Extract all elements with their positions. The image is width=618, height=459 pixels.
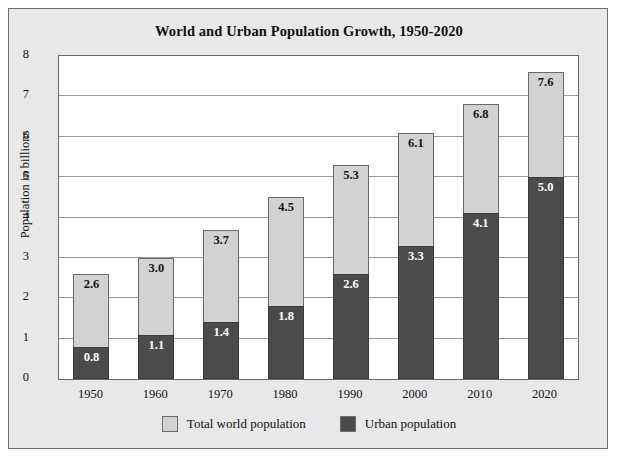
y-tick-label: 5 — [0, 168, 29, 183]
x-tick-label: 1970 — [185, 387, 255, 402]
bar-group[interactable]: 7.65.0 — [528, 56, 564, 379]
x-tick-label: 2010 — [445, 387, 515, 402]
legend-swatch-icon — [162, 416, 178, 432]
bar-group[interactable]: 6.84.1 — [463, 56, 499, 379]
bar-value-label-total: 5.3 — [334, 168, 368, 183]
y-tick-label: 4 — [0, 209, 29, 224]
chart-title: World and Urban Population Growth, 1950-… — [9, 23, 609, 40]
bar-group[interactable]: 2.60.8 — [73, 56, 109, 379]
bar-group[interactable]: 5.32.6 — [333, 56, 369, 379]
y-tick-label: 1 — [0, 330, 29, 345]
chart-figure: World and Urban Population Growth, 1950-… — [0, 0, 618, 459]
legend-label: Urban population — [365, 416, 456, 432]
gridline — [59, 217, 578, 218]
x-tick-label: 1990 — [315, 387, 385, 402]
bar-segment-urban-population[interactable]: 0.8 — [73, 347, 109, 379]
bar-value-label-total: 2.6 — [74, 277, 108, 292]
gridline — [59, 297, 578, 298]
bar-value-label-urban: 3.3 — [399, 249, 433, 264]
bar-segment-urban-population[interactable]: 4.1 — [463, 213, 499, 379]
gridline — [59, 257, 578, 258]
bar-value-label-total: 3.0 — [139, 261, 173, 276]
bar-value-label-urban: 4.1 — [464, 216, 498, 231]
y-tick-label: 8 — [0, 47, 29, 62]
y-tick-label: 6 — [0, 128, 29, 143]
x-tick-label: 2000 — [380, 387, 450, 402]
bar-value-label-urban: 0.8 — [74, 350, 108, 365]
bar-group[interactable]: 3.01.1 — [138, 56, 174, 379]
bar-value-label-urban: 1.1 — [139, 338, 173, 353]
x-tick-label: 1950 — [55, 387, 125, 402]
y-tick-label: 2 — [0, 289, 29, 304]
bar-segment-urban-population[interactable]: 5.0 — [528, 177, 564, 379]
chart-frame: World and Urban Population Growth, 1950-… — [8, 8, 608, 449]
gridline — [59, 95, 578, 96]
bar-value-label-total: 3.7 — [204, 233, 238, 248]
legend-swatch-icon — [340, 416, 356, 432]
bar-value-label-urban: 5.0 — [529, 180, 563, 195]
bar-value-label-total: 7.6 — [529, 75, 563, 90]
x-tick-label: 1980 — [250, 387, 320, 402]
legend-label: Total world population — [187, 416, 306, 432]
bar-value-label-total: 6.8 — [464, 107, 498, 122]
bar-value-label-urban: 1.4 — [204, 325, 238, 340]
bar-value-label-total: 6.1 — [399, 136, 433, 151]
bar-group[interactable]: 3.71.4 — [203, 56, 239, 379]
y-tick-label: 3 — [0, 249, 29, 264]
chart-legend: Total world populationUrban population — [9, 416, 609, 432]
bar-segment-urban-population[interactable]: 1.1 — [138, 335, 174, 379]
legend-entry[interactable]: Urban population — [340, 416, 456, 432]
legend-entry[interactable]: Total world population — [162, 416, 306, 432]
gridline — [59, 136, 578, 137]
bar-segment-urban-population[interactable]: 1.4 — [203, 322, 239, 379]
bar-group[interactable]: 4.51.8 — [268, 56, 304, 379]
bar-segment-urban-population[interactable]: 2.6 — [333, 274, 369, 379]
plot-area: 2.60.83.01.13.71.44.51.85.32.66.13.36.84… — [58, 55, 579, 380]
y-tick-label: 7 — [0, 87, 29, 102]
bar-value-label-urban: 2.6 — [334, 277, 368, 292]
bar-value-label-urban: 1.8 — [269, 309, 303, 324]
gridline — [59, 338, 578, 339]
y-tick-label: 0 — [0, 370, 29, 385]
x-tick-label: 2020 — [510, 387, 580, 402]
bar-group[interactable]: 6.13.3 — [398, 56, 434, 379]
gridline — [59, 176, 578, 177]
x-tick-label: 1960 — [120, 387, 190, 402]
bar-segment-urban-population[interactable]: 3.3 — [398, 246, 434, 379]
bar-segment-urban-population[interactable]: 1.8 — [268, 306, 304, 379]
bar-value-label-total: 4.5 — [269, 200, 303, 215]
